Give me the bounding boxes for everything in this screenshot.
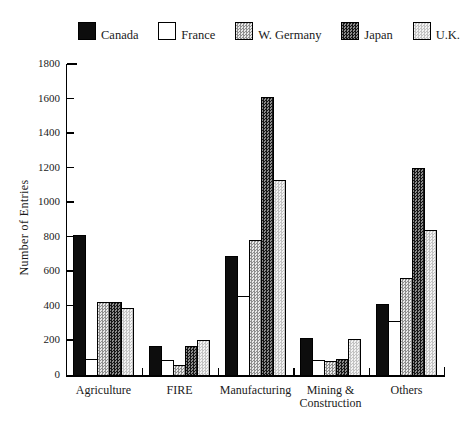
legend-item-u-k: U.K.	[413, 22, 460, 40]
legend-item-japan: Japan	[341, 22, 392, 40]
x-tick-4	[369, 368, 371, 375]
y-tick-1200	[67, 167, 74, 169]
legend-swatch-icon-u-k	[413, 22, 431, 40]
y-tick-label-400: 400	[18, 299, 60, 312]
bar-chart: CanadaFranceW. GermanyJapanU.K. Number o…	[0, 0, 468, 431]
bar-group-agriculture	[73, 235, 134, 375]
bar-u-k-fire	[197, 340, 210, 375]
y-tick-label-800: 800	[18, 230, 60, 243]
bar-u-k-others	[424, 230, 437, 375]
legend-label-w-germany: W. Germany	[258, 28, 321, 42]
y-tick-label-1400: 1400	[18, 126, 60, 139]
x-tick-1	[142, 368, 144, 375]
bar-group-manufacturing	[225, 97, 286, 375]
legend-label-japan: Japan	[364, 28, 392, 42]
legend-item-w-germany: W. Germany	[235, 22, 321, 40]
y-tick-label-600: 600	[18, 264, 60, 277]
bar-group-fire	[149, 340, 210, 375]
y-tick-1600	[67, 98, 74, 100]
legend-swatch-icon-japan	[341, 22, 359, 40]
x-category-label-others: Others	[352, 384, 462, 397]
legend-swatch-icon-canada	[78, 22, 96, 40]
legend-swatch-icon-w-germany	[235, 22, 253, 40]
bar-groups	[73, 64, 437, 375]
x-tick-2	[218, 368, 220, 375]
y-tick-800	[67, 236, 74, 238]
bar-u-k-manufacturing	[273, 180, 286, 375]
y-tick-1800	[67, 63, 77, 65]
y-tick-label-0: 0	[18, 368, 60, 381]
bar-group-others	[376, 168, 437, 375]
y-tick-label-1600: 1600	[18, 92, 60, 105]
legend-item-canada: Canada	[78, 22, 138, 40]
y-tick-1000	[67, 201, 74, 203]
legend-label-france: France	[181, 28, 215, 42]
y-tick-600	[67, 270, 74, 272]
y-tick-label-1000: 1000	[18, 195, 60, 208]
x-axis-end-tick	[444, 367, 446, 375]
bar-canada-agriculture	[73, 235, 86, 375]
legend-item-france: France	[158, 22, 215, 40]
y-tick-label-1800: 1800	[18, 57, 60, 70]
x-tick-3	[293, 368, 295, 375]
y-tick-1400	[67, 132, 74, 134]
legend-label-canada: Canada	[101, 28, 138, 42]
chart-legend: CanadaFranceW. GermanyJapanU.K.	[78, 22, 460, 40]
y-tick-400	[67, 305, 74, 307]
plot-area: 020040060080010001200140016001800Agricul…	[66, 64, 445, 377]
bar-u-k-mining-construction	[348, 339, 361, 375]
y-tick-label-200: 200	[18, 333, 60, 346]
legend-label-u-k: U.K.	[436, 28, 460, 42]
bar-group-mining-construction	[300, 338, 361, 375]
legend-swatch-icon-france	[158, 22, 176, 40]
y-tick-200	[67, 339, 74, 341]
y-tick-label-1200: 1200	[18, 161, 60, 174]
bar-u-k-agriculture	[121, 308, 134, 375]
